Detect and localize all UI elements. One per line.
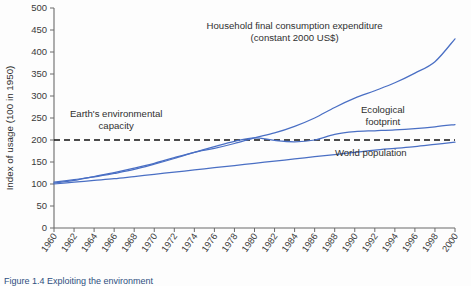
ecological-footprint-annotation-line-1: footprint <box>365 116 400 127</box>
household-expenditure-annotation-line-1: (constant 2000 US$) <box>251 32 339 43</box>
y-tick-label: 150 <box>31 156 47 167</box>
chart-figure: Index of usage (100 in 1950) 05010015020… <box>0 0 471 286</box>
x-tick-label: 1968 <box>119 231 139 253</box>
figure-caption: Figure 1.4 Exploiting the environment <box>4 276 154 286</box>
x-tick-label: 1998 <box>420 231 440 253</box>
y-tick-label: 400 <box>31 46 47 57</box>
y-tick-label: 0 <box>42 222 47 233</box>
earth-capacity-annotation-line-0: Earth's environmental <box>70 108 163 119</box>
x-tick-label: 1996 <box>400 231 420 253</box>
ecological-footprint-annotation: Ecologicalfootprint <box>361 104 405 127</box>
x-tick-label: 1966 <box>99 231 119 253</box>
x-tick-label: 1974 <box>180 231 200 253</box>
y-tick-label: 50 <box>36 200 47 211</box>
household-expenditure-annotation: Household final consumption expenditure(… <box>207 20 383 43</box>
x-tick-label: 1992 <box>360 231 380 253</box>
earth-capacity-annotation: Earth's environmentalcapacity <box>70 108 163 131</box>
line-chart-svg: Index of usage (100 in 1950) 05010015020… <box>0 0 471 286</box>
y-axis-title-group: Index of usage (100 in 1950) <box>4 66 15 191</box>
x-tick-label: 1978 <box>220 231 240 253</box>
y-axis-title: Index of usage (100 in 1950) <box>4 66 15 191</box>
x-tick-label: 2000 <box>440 231 460 253</box>
world-population-annotation-line-0: World population <box>335 147 407 158</box>
x-tick-label: 1972 <box>160 231 180 253</box>
x-axis-ticks: 1960196219641966196819701972197419761978… <box>39 228 460 254</box>
world-population-annotation: World population <box>335 147 407 158</box>
x-tick-label: 1964 <box>79 231 99 253</box>
x-tick-label: 1970 <box>139 231 159 253</box>
y-tick-label: 500 <box>31 2 47 13</box>
x-tick-label: 1988 <box>320 231 340 253</box>
x-tick-label: 1982 <box>260 231 280 253</box>
chart-annotations: Earth's environmentalcapacityHousehold f… <box>70 20 407 158</box>
ecological-footprint-annotation-line-0: Ecological <box>361 104 405 115</box>
household-expenditure-annotation-line-0: Household final consumption expenditure <box>207 20 383 31</box>
x-tick-label: 1976 <box>200 231 220 253</box>
x-tick-label: 1986 <box>300 231 320 253</box>
y-tick-label: 100 <box>31 178 47 189</box>
y-tick-label: 450 <box>31 24 47 35</box>
x-tick-label: 1984 <box>280 231 300 253</box>
x-tick-label: 1994 <box>380 231 400 253</box>
earth-capacity-annotation-line-1: capacity <box>99 120 134 131</box>
x-tick-label: 1960 <box>39 231 59 253</box>
x-tick-label: 1980 <box>240 231 260 253</box>
y-tick-label: 300 <box>31 90 47 101</box>
x-tick-label: 1962 <box>59 231 79 253</box>
x-tick-label: 1990 <box>340 231 360 253</box>
y-axis-ticks: 050100150200250300350400450500 <box>31 2 54 233</box>
y-tick-label: 200 <box>31 134 47 145</box>
y-tick-label: 250 <box>31 112 47 123</box>
y-tick-label: 350 <box>31 68 47 79</box>
